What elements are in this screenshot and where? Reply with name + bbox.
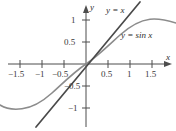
x-tick-label-1-5: 1.5	[145, 70, 156, 79]
label-y-equals-x: y = x	[106, 6, 125, 15]
y-axis-name: y	[90, 3, 94, 12]
x-tick-label-1: 1	[127, 70, 132, 79]
y-tick-label-1: 1	[71, 16, 76, 25]
label-y-equals-sinx: y = sin x	[121, 31, 152, 40]
x-tick-label-neg1: −1	[35, 70, 45, 79]
x-tick-label-0-5: 0.5	[101, 70, 112, 79]
sine-and-identity-plot-figure: −1.5 −1 −0.5 0.5 1 1.5 1 0.5 −0.5 −1 y x…	[0, 0, 176, 131]
x-tick-label-neg1-5: −1.5	[8, 70, 24, 79]
y-tick-label-neg1: −1	[68, 104, 78, 113]
y-tick-label-0-5: 0.5	[64, 38, 75, 47]
plot-canvas	[0, 0, 176, 131]
x-axis-name: x	[166, 53, 170, 62]
y-tick-label-neg0-5: −0.5	[64, 82, 80, 91]
x-tick-label-neg0-5: −0.5	[52, 70, 68, 79]
y-axis-arrowhead	[83, 5, 89, 13]
